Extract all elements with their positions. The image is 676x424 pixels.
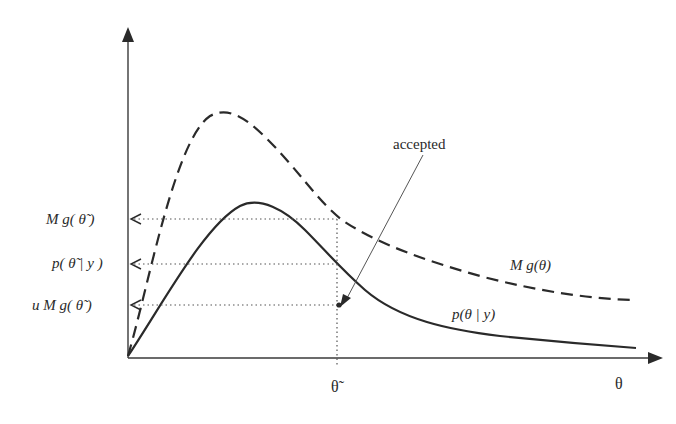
x-axis-label-theta: θ <box>615 376 623 392</box>
annotation-accepted: accepted <box>393 137 445 152</box>
x-axis-arrow-icon <box>648 352 663 364</box>
target-label: p(θ | y) <box>452 307 495 322</box>
y-axis-arrow-icon <box>122 27 134 42</box>
y-label-p-theta-tilde: p( θ̃ | y ) <box>52 256 103 271</box>
envelope-label: M g(θ) <box>510 258 551 273</box>
envelope-curve <box>128 112 636 356</box>
rejection-sampling-diagram <box>0 0 676 424</box>
y-label-umg-theta-tilde: u M g( θ̃ ) <box>32 298 92 313</box>
accepted-pointer-arrow-icon <box>340 294 351 307</box>
y-label-mg-theta-tilde: M g( θ̃ ) <box>46 212 95 227</box>
target-curve <box>128 203 636 356</box>
x-marker-theta-tilde: θ̃ <box>331 379 339 395</box>
accepted-pointer <box>346 155 423 300</box>
